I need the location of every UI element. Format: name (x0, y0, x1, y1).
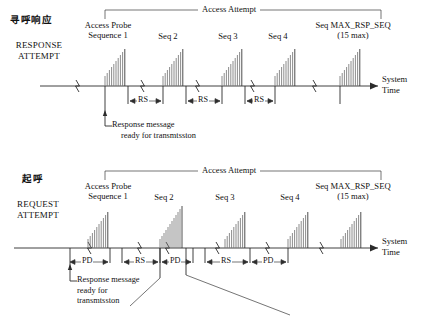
interval-label-rs-3: RS (253, 95, 265, 104)
seq-label-max-request-line2: (15 max) (300, 191, 406, 201)
timeline-arrow-response (370, 83, 378, 90)
interval-label-rs-2: RS (197, 95, 209, 104)
seq-label-max-request-line1: Seq MAX_RSP_SEQ (300, 181, 406, 191)
probe-burst-seq1-request (88, 212, 108, 248)
probe-burst-seq4-request (288, 212, 308, 248)
note-response: Response message ready for transmtsston (112, 120, 196, 141)
callout-leaders-request (130, 275, 290, 315)
note-request: Response message ready for transmtsston (77, 275, 140, 307)
response-attempt-panel: 寻呼响应 RESPONSE ATTEMPT (0, 0, 433, 163)
seq-label-3-response: Seq 3 (208, 31, 248, 41)
interval-label-pd-3: PD (262, 256, 274, 265)
seq-label-4-response: Seq 4 (258, 31, 298, 41)
seq-label-first-request-line1: Access Probe (76, 181, 140, 191)
seq-label-first-line2: Sequence 1 (76, 30, 140, 40)
seq-label-max-line2: (15 max) (300, 30, 406, 40)
probe-burst-seq2-request (160, 206, 186, 278)
seq-label-first-response: Access Probe Sequence 1 (76, 20, 140, 40)
probe-burst-seq2 (163, 49, 186, 104)
axis-label-response-line1: System (382, 74, 407, 85)
axis-label-request: System Time (382, 236, 407, 257)
probe-burst-seq1 (105, 49, 128, 118)
seq-label-first-request-line2: Sequence 1 (76, 191, 140, 201)
axis-label-request-line2: Time (382, 247, 407, 258)
note-request-line1: Response message (77, 275, 140, 286)
note-request-line2: ready for (77, 286, 140, 297)
seq-label-max-response: Seq MAX_RSP_SEQ (15 max) (300, 20, 406, 40)
note-response-line2: ready for transmtsston (112, 131, 196, 142)
interval-label-pd-1: PD (81, 256, 93, 265)
seq-label-first-request: Access Probe Sequence 1 (76, 181, 140, 201)
interval-label-rs-1-request: RS (134, 256, 146, 265)
axis-label-response: System Time (382, 74, 407, 95)
probe-burst-seq4 (275, 49, 295, 104)
seq-label-first-line1: Access Probe (76, 20, 140, 30)
note-leader-response (103, 110, 112, 126)
seq-label-3-request: Seq 3 (205, 192, 245, 202)
request-attempt-panel: 起呼 REQUEST ATTEMPT (0, 163, 433, 326)
seq-label-max-request: Seq MAX_RSP_SEQ (15 max) (300, 181, 406, 201)
note-request-line3: transmtsston (77, 296, 140, 307)
timeline-arrow-request (370, 245, 378, 252)
probe-burst-seq-max-request (341, 212, 361, 248)
seq-label-max-line1: Seq MAX_RSP_SEQ (300, 20, 406, 30)
interval-label-rs-1: RS (137, 95, 149, 104)
axis-label-response-line2: Time (382, 85, 407, 96)
note-response-line1: Response message (112, 120, 196, 131)
note-leader-request (68, 263, 77, 281)
axis-label-request-line1: System (382, 236, 407, 247)
probe-burst-seq-max (340, 49, 360, 104)
seq-label-2-request: Seq 2 (144, 192, 184, 202)
access-attempt-label-request: Access Attempt (198, 165, 260, 175)
probe-burst-seq3 (222, 49, 245, 104)
probe-burst-seq3-request (225, 212, 245, 248)
access-attempt-label-response: Access Attempt (198, 4, 260, 14)
seq-label-2-response: Seq 2 (148, 31, 188, 41)
interval-label-rs-2-request: RS (220, 256, 232, 265)
interval-label-pd-2: PD (169, 256, 181, 265)
